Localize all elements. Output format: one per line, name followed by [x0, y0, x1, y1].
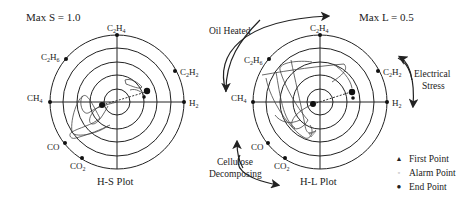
square-icon: ▫ [395, 166, 403, 180]
hs-label-c2h6: C2H6 [41, 52, 60, 63]
max-s-label: Max S = 1.0 [26, 11, 81, 23]
oil-heated-label: Oil Heated [209, 26, 251, 36]
legend-item-end-point: ● End Point [395, 180, 456, 194]
legend-item-alarm-point: ▫ Alarm Point [395, 166, 456, 180]
cellulose-label-2: Decomposing [209, 169, 262, 179]
hs-first-point [99, 102, 105, 108]
hs-label-co2: CO2 [70, 161, 86, 172]
hl-label-c2h2: C2H2 [383, 67, 402, 78]
hl-label-co: CO [251, 142, 264, 152]
hs-label-c2h4: C2H4 [107, 23, 126, 34]
electrical-stress-label-2: Stress [422, 81, 445, 91]
legend-label: First Point [409, 152, 449, 166]
cellulose-label-1: Cellulose [217, 157, 253, 167]
hs-label-ch4: CH4 [27, 93, 43, 104]
hl-plot-title: H-L Plot [300, 176, 337, 187]
hl-label-c2h6: C2H6 [244, 55, 263, 66]
legend-item-first-point: ▲ First Point [395, 152, 456, 166]
dot-icon: ● [395, 180, 403, 194]
max-l-label: Max L = 0.5 [359, 11, 414, 23]
triangle-icon: ▲ [395, 152, 403, 166]
legend: ▲ First Point ▫ Alarm Point ● End Point [395, 152, 456, 194]
hl-end-point [349, 89, 355, 95]
hl-label-ch4: CH4 [231, 93, 247, 104]
electrical-stress-arrow-down [398, 58, 413, 106]
hl-label-h2: H2 [392, 98, 402, 109]
hl-label-co2: CO2 [274, 161, 290, 172]
hs-end-point-2 [142, 95, 146, 99]
legend-label: End Point [409, 180, 447, 194]
hl-label-c2h4: C2H4 [310, 23, 329, 34]
hs-plot: Max S = 1.0 [26, 11, 199, 187]
hl-end-point-2 [351, 96, 355, 100]
hs-label-c2h2: C2H2 [180, 67, 199, 78]
hs-label-co: CO [47, 142, 60, 152]
hs-first-to-end-line [102, 92, 146, 105]
electrical-stress-label-1: Electrical [414, 69, 451, 79]
hs-trajectory [70, 79, 145, 138]
hl-first-point [310, 101, 316, 107]
hs-end-point [144, 88, 150, 94]
hs-label-h2: H2 [189, 98, 199, 109]
hs-plot-title: H-S Plot [97, 176, 134, 187]
legend-label: Alarm Point [409, 166, 456, 180]
